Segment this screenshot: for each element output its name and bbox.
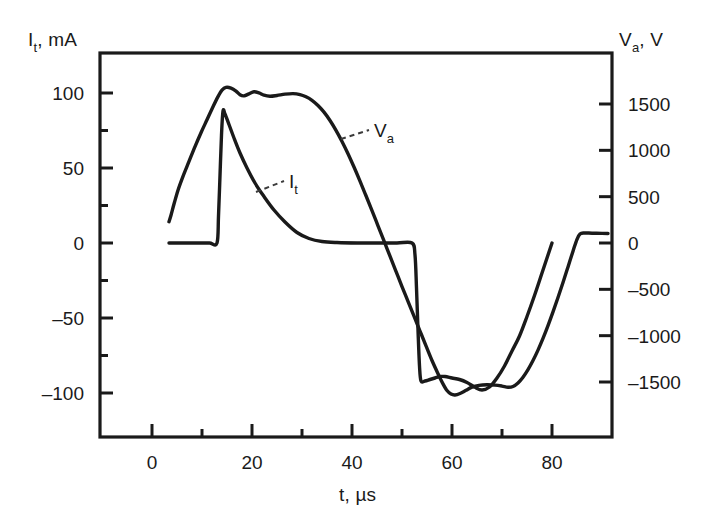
x-tick-label: 20 [241,452,262,473]
x-tick-label: 40 [341,452,362,473]
y-left-tick-label: –100 [42,383,84,404]
y-left-tick-label: 100 [52,83,84,104]
x-tick-label: 80 [541,452,562,473]
x-tick-label: 0 [147,452,158,473]
x-tick-label: 60 [441,452,462,473]
y-right-tick-label: –1500 [628,372,681,393]
y-right-tick-label: –500 [628,279,670,300]
y-right-tick-label: 500 [628,187,660,208]
y-right-tick-label: 0 [628,233,639,254]
y-right-tick-label: 1000 [628,140,670,161]
y-right-tick-label: 1500 [628,94,670,115]
y-left-tick-label: 50 [63,158,84,179]
chart-canvas: 100500–50–100 150010005000–500–1000–1500… [0,0,709,522]
figure-background [0,0,709,522]
y-right-tick-label: –1000 [628,326,681,347]
figure-container: 100500–50–100 150010005000–500–1000–1500… [0,0,709,522]
y-left-tick-label: 0 [73,233,84,254]
x-axis-title: t, µs [339,484,376,505]
y-left-tick-label: –50 [52,308,84,329]
